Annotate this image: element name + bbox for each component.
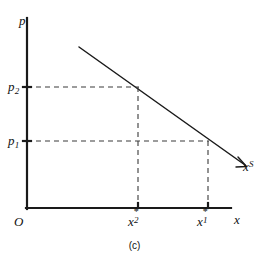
x-tick-label-x1-subscript: 1 <box>203 216 208 225</box>
supply-curve-label-base: x <box>243 159 249 174</box>
y-tick-label-p2: p2 <box>8 80 19 96</box>
x-tick-label-x2-subscript: 2 <box>134 216 139 225</box>
y-tick-label-p2-subscript: 2 <box>15 86 20 96</box>
y-axis-label: p <box>19 14 26 27</box>
figure-caption: (c) <box>0 240 269 251</box>
supply-curve-label: xS <box>243 160 254 173</box>
x-tick-label-x2-star: x*2 <box>128 213 139 228</box>
y-tick-label-p2-base: p <box>8 79 15 94</box>
supply-curve-label-superscript: S <box>249 159 254 169</box>
origin-label: O <box>14 215 23 228</box>
x-tick-label-x1-star: x*1 <box>197 213 208 228</box>
x-tick-label-x2-affix: *2 <box>134 213 139 226</box>
economics-figure: p p2 p1 O x*2 x*1 x xS (c) <box>0 0 269 263</box>
y-tick-label-p1: p1 <box>8 134 19 150</box>
x-axis-label: x <box>234 213 240 226</box>
y-tick-label-p1-subscript: 1 <box>15 140 20 150</box>
supply-curve-line <box>79 47 245 165</box>
x-tick-label-x1-affix: *1 <box>203 213 208 226</box>
y-tick-label-p1-base: p <box>8 133 15 148</box>
